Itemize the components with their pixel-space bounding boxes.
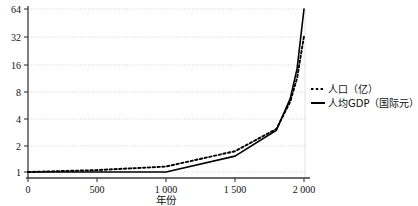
y-tick-label-16: 16 <box>11 60 21 71</box>
chart-container: 64 32 16 8 4 2 1 0 500 1 000 1 500 2 000… <box>0 0 418 206</box>
y-tick-label-2: 2 <box>16 141 21 152</box>
x-tick-label-500: 500 <box>90 184 105 195</box>
x-tick-label-2000: 2 000 <box>293 184 316 195</box>
y-tick-label-4: 4 <box>16 114 21 125</box>
line-chart-figure: 64 32 16 8 4 2 1 0 500 1 000 1 500 2 000… <box>0 0 418 206</box>
chart-legend: 人口（亿） 人均GDP（国际元） <box>311 83 418 109</box>
x-axis-title: 年份 <box>156 194 177 206</box>
y-tick-label-32: 32 <box>11 32 21 43</box>
x-tick-label-1500: 1 500 <box>224 184 247 195</box>
plot-area-background <box>28 9 305 178</box>
y-tick-label-1: 1 <box>16 167 21 178</box>
legend-label-gdp-per-capita: 人均GDP（国际元） <box>328 98 418 109</box>
y-tick-label-8: 8 <box>16 87 21 98</box>
legend-label-population: 人口（亿） <box>328 83 378 95</box>
x-tick-label-0: 0 <box>26 184 31 195</box>
y-tick-label-64: 64 <box>11 4 21 15</box>
